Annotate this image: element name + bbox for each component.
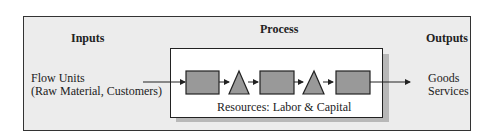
- buffer-triangle-2: [303, 71, 324, 94]
- activity-box-1: [186, 71, 219, 94]
- activity-box-3: [336, 71, 370, 94]
- buffer-triangle-1: [229, 71, 249, 94]
- activity-box-2: [260, 71, 294, 94]
- flow-diagram: [0, 0, 489, 139]
